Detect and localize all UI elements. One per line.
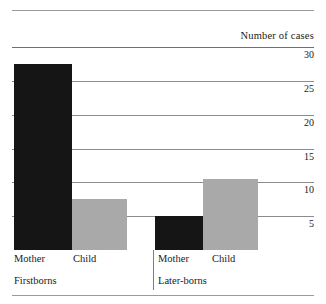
figure-top-rule <box>12 10 314 11</box>
tick-label-20: 20 <box>282 117 314 128</box>
bar-laterborns-child <box>203 179 258 250</box>
bar-firstborns-child <box>72 199 127 250</box>
group-label-laterborns: Later-borns <box>158 275 207 286</box>
series-label-firstborns-mother: Mother <box>14 253 45 264</box>
series-label-laterborns-child: Child <box>212 253 235 264</box>
group-label-firstborns: Firstborns <box>14 275 57 286</box>
figure-bottom-rule <box>12 295 314 296</box>
group-divider <box>153 250 154 290</box>
series-label-firstborns-child: Child <box>73 253 96 264</box>
gridline-30 <box>12 47 314 48</box>
axis-title: Number of cases <box>240 30 314 41</box>
series-label-laterborns-mother: Mother <box>158 253 189 264</box>
tick-label-15: 15 <box>282 151 314 162</box>
tick-label-25: 25 <box>282 83 314 94</box>
bar-firstborns-mother <box>14 64 72 250</box>
tick-label-5: 5 <box>282 218 314 229</box>
tick-label-30: 30 <box>282 49 314 60</box>
tick-label-10: 10 <box>282 184 314 195</box>
plot-area: 30 25 20 15 10 5 <box>12 47 314 250</box>
bar-laterborns-mother <box>155 216 203 250</box>
bar-chart-figure: Number of cases 30 25 20 15 10 5 Mother … <box>0 0 326 304</box>
